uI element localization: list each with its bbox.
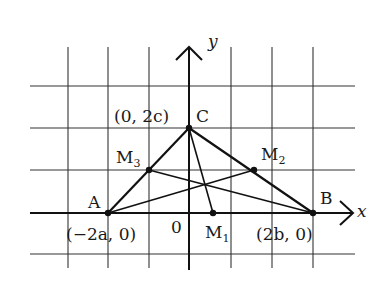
x-axis-label: x [357,201,367,221]
point-b [310,210,316,216]
point-m3 [146,167,152,173]
y-axis-label: y [207,31,218,51]
point-a-coords: (−2a, 0) [66,224,136,244]
point-b-label: B [320,188,333,208]
point-c-coords: (0, 2c) [114,106,169,126]
point-m1 [210,210,216,216]
point-c-label: C [196,106,209,126]
point-m3-label: M3 [116,147,140,170]
point-c [186,125,192,131]
point-m1-label: M1 [205,222,229,245]
point-b-coords: (2b, 0) [256,224,313,244]
diagram-canvas: y x 0 C (0, 2c) A (−2a, 0) B (2b, 0) M3 … [0,0,384,281]
point-a-label: A [87,192,101,212]
point-m2 [251,167,257,173]
origin-label: 0 [171,217,182,237]
point-a [105,210,111,216]
point-m2-label: M2 [261,144,285,167]
